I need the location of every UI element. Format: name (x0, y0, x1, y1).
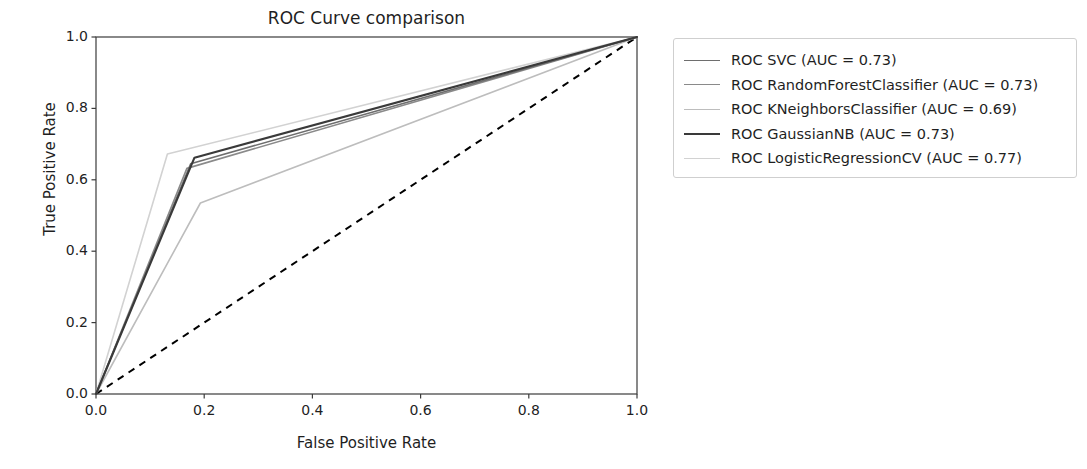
legend-item-kneighborsclassifier: ROC KNeighborsClassifier (AUC = 0.69) (684, 97, 1017, 121)
legend-line-swatch (684, 60, 720, 61)
legend-label: ROC LogisticRegressionCV (AUC = 0.77) (731, 150, 1022, 166)
roc-curve-figure: ROC Curve comparison False Positive Rate… (0, 0, 1087, 469)
x-tick-label: 0.4 (282, 402, 342, 418)
y-tick-label: 0.8 (36, 99, 88, 115)
legend-label: ROC KNeighborsClassifier (AUC = 0.69) (731, 101, 1017, 117)
y-tick-label: 0.0 (36, 385, 88, 401)
x-tick-label: 0.2 (174, 402, 234, 418)
legend-line-swatch (684, 84, 720, 85)
legend-label: ROC SVC (AUC = 0.73) (731, 52, 897, 68)
x-tick-label: 0.0 (66, 402, 126, 418)
x-tick-label: 1.0 (607, 402, 667, 418)
legend-label: ROC GaussianNB (AUC = 0.73) (731, 126, 955, 142)
y-tick-label: 0.6 (36, 171, 88, 187)
y-tick-label: 0.2 (36, 314, 88, 330)
legend-line-swatch (684, 158, 720, 159)
x-tick-label: 0.8 (499, 402, 559, 418)
legend-line-swatch (684, 109, 720, 110)
legend-item-logisticregressioncv: ROC LogisticRegressionCV (AUC = 0.77) (684, 146, 1022, 170)
legend-item-svc: ROC SVC (AUC = 0.73) (684, 48, 897, 72)
legend-item-gaussiannb: ROC GaussianNB (AUC = 0.73) (684, 122, 955, 146)
legend-label: ROC RandomForestClassifier (AUC = 0.73) (731, 77, 1038, 93)
y-tick-label: 1.0 (36, 28, 88, 44)
baseline-diagonal (96, 37, 637, 394)
y-tick-label: 0.4 (36, 242, 88, 258)
x-tick-label: 0.6 (391, 402, 451, 418)
legend-item-randomforestclassifier: ROC RandomForestClassifier (AUC = 0.73) (684, 73, 1038, 97)
legend-line-swatch (684, 133, 720, 135)
chart-legend: ROC SVC (AUC = 0.73)ROC RandomForestClas… (673, 38, 1077, 178)
